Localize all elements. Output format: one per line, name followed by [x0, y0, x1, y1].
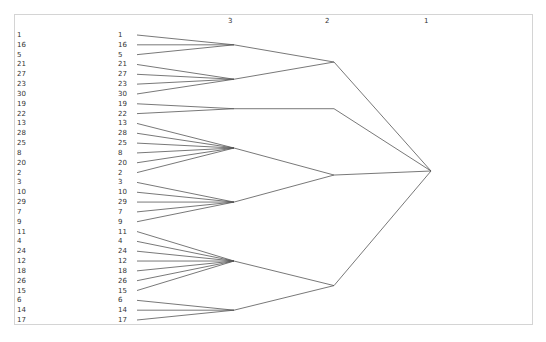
cluster-edge-level3 — [234, 261, 334, 286]
leaf-edge — [137, 241, 234, 261]
leaf-edge — [137, 192, 234, 202]
leaf-edge — [137, 45, 234, 55]
cluster-edge-level3 — [234, 45, 334, 62]
leaf-edge — [137, 202, 234, 222]
cluster-tree-lines — [0, 0, 546, 342]
leaf-edge — [137, 35, 234, 45]
leaf-edge — [137, 109, 234, 114]
leaf-edge — [137, 261, 234, 281]
leaf-edge — [137, 261, 234, 271]
leaf-edge — [137, 104, 234, 109]
cluster-edge-level3 — [234, 148, 334, 175]
leaf-edge — [137, 182, 234, 202]
leaf-edge — [137, 232, 234, 261]
cluster-edge-level3 — [234, 62, 334, 79]
leaf-edge — [137, 202, 234, 212]
leaf-edge — [137, 261, 234, 290]
leaf-edge — [137, 251, 234, 261]
cluster-edge-level2 — [334, 62, 431, 171]
cluster-edge-level2 — [334, 171, 431, 175]
leaf-edge — [137, 310, 234, 320]
leaf-edge — [137, 300, 234, 310]
cluster-edge-level3 — [234, 175, 334, 202]
cluster-edge-level2 — [334, 109, 431, 171]
cluster-edge-level2 — [334, 171, 431, 286]
cluster-edge-level3 — [234, 286, 334, 311]
